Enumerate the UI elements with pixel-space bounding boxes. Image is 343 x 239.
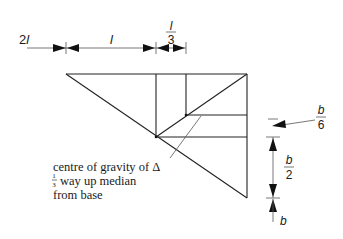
fraction-num: 1: [52, 172, 56, 180]
label-2l: 2l: [19, 32, 30, 47]
centroid-annotation: centre of gravity of Δ 1 3 way up median…: [52, 160, 160, 202]
label-l-over-3: l 3: [166, 19, 176, 47]
annotation-line1: centre of gravity of Δ: [53, 160, 160, 174]
svg-text:2: 2: [286, 168, 293, 182]
point-on-hypotenuse: [155, 136, 158, 139]
arrow-right-icon: [143, 44, 155, 52]
annotation-line3: from base: [53, 188, 103, 202]
svg-text:l: l: [170, 19, 173, 33]
arrow-down-icon: [269, 184, 277, 197]
svg-text:3: 3: [168, 33, 175, 47]
construction-lines: [155, 74, 247, 138]
arrow-left-icon: [67, 44, 79, 52]
label-b-over-2: b 2: [284, 153, 294, 182]
arrow-left-icon: [272, 120, 286, 128]
label-b: b: [280, 214, 287, 228]
label-b-over-6: b 6: [316, 103, 326, 132]
annotation-line2: way up median: [60, 174, 137, 188]
b6-leader: [282, 120, 315, 125]
svg-text:b: b: [318, 103, 325, 117]
arrow-right-icon: [53, 44, 66, 52]
centroid-point: [185, 114, 188, 117]
arrow-right-icon: [173, 44, 185, 52]
svg-text:6: 6: [318, 118, 325, 132]
label-l: l: [110, 32, 114, 47]
centroid-diagram: 2l l l 3: [0, 0, 343, 239]
median-line: [156, 74, 247, 137]
svg-text:b: b: [286, 153, 293, 167]
top-dimension-line: [27, 42, 186, 54]
arrow-up-icon: [269, 138, 277, 151]
